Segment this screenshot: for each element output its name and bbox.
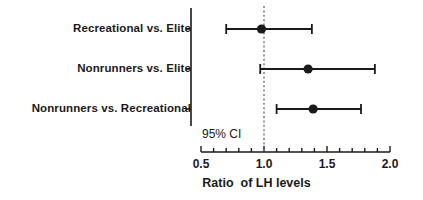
ci-row-0 — [226, 24, 312, 34]
data-series-layer — [226, 24, 375, 114]
ci-row-2 — [277, 104, 361, 114]
category-label-0: Recreational vs. Elite — [73, 23, 191, 35]
x-axis-title: Ratio of LH levels — [0, 177, 423, 190]
forest-plot-figure: Recreational vs. EliteNonrunners vs. Eli… — [0, 0, 423, 200]
point-estimate-marker — [257, 24, 266, 33]
forest-plot-canvas — [0, 0, 423, 200]
x-tick-label-1.0: 1.0 — [256, 158, 273, 170]
ci-row-1 — [260, 64, 375, 74]
category-label-1: Nonrunners vs. Elite — [77, 63, 191, 75]
point-estimate-marker — [309, 104, 318, 113]
point-estimate-marker — [304, 64, 313, 73]
category-label-2: Nonrunners vs. Recreational — [32, 103, 191, 115]
x-tick-label-0.5: 0.5 — [193, 158, 210, 170]
x-tick-label-1.5: 1.5 — [319, 158, 336, 170]
x-tick-label-2.0: 2.0 — [382, 158, 399, 170]
ci-annotation: 95% CI — [202, 128, 241, 140]
